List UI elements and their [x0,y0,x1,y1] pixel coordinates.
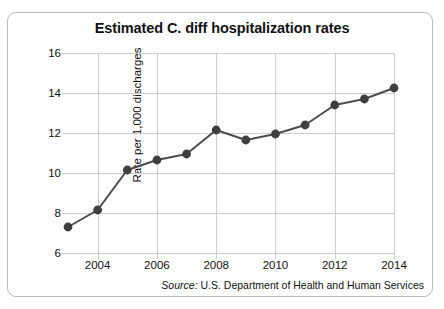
series-markers [64,84,399,232]
y-axis-tick-label: 10 [48,167,61,179]
data-point-marker [153,156,162,165]
series-line-path [68,88,394,227]
y-axis-tick-label: 8 [55,207,61,219]
y-axis-tick-label: 16 [48,47,61,59]
x-axis-tick-label: 2004 [85,259,111,271]
plot-area: Rate per 1,000 discharges 6810121416 200… [68,53,394,253]
source-prefix: Source: [161,279,197,291]
y-axis-tick-label: 6 [55,247,61,259]
data-point-marker [93,206,102,215]
line-series [68,53,394,253]
y-axis-tick-label: 14 [48,87,61,99]
y-axis-tick-label: 12 [48,127,61,139]
x-axis-tick-label: 2008 [203,259,229,271]
x-axis-tick-label: 2014 [381,259,407,271]
source-text: U.S. Department of Health and Human Serv… [200,279,424,291]
source-note: Source: U.S. Department of Health and Hu… [0,279,424,291]
data-point-marker [271,130,280,139]
data-point-marker [64,223,73,232]
gridline-horizontal [62,253,394,254]
data-point-marker [212,126,221,135]
data-point-marker [241,136,250,145]
x-axis-tick-label: 2010 [263,259,289,271]
data-point-marker [123,166,132,175]
chart-figure: Estimated C. diff hospitalization rates … [0,0,444,309]
data-point-marker [330,101,339,110]
data-point-marker [301,121,310,130]
data-point-marker [390,84,399,93]
data-point-marker [360,95,369,104]
x-axis-tick-label: 2006 [144,259,170,271]
chart-title: Estimated C. diff hospitalization rates [0,20,444,36]
x-axis-tick-label: 2012 [322,259,348,271]
data-point-marker [182,150,191,159]
